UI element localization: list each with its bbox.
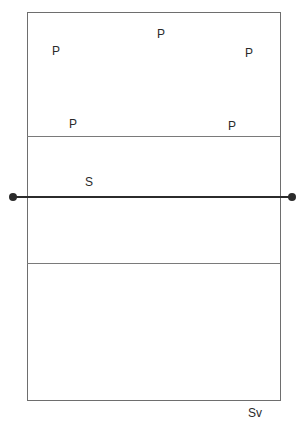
player-marker: P <box>245 47 253 59</box>
net-post-left-icon <box>9 193 17 201</box>
player-marker: P <box>52 45 60 57</box>
setter-marker: S <box>85 176 93 188</box>
player-marker: P <box>157 28 165 40</box>
attack-line-near <box>27 263 280 264</box>
player-marker: P <box>69 118 77 130</box>
player-marker: P <box>228 120 236 132</box>
server-marker: Sv <box>248 407 262 419</box>
court-boundary <box>27 12 281 401</box>
volleyball-court-diagram: P P P P P S Sv <box>0 0 299 426</box>
net <box>13 196 292 198</box>
net-post-right-icon <box>288 193 296 201</box>
attack-line-far <box>27 136 280 137</box>
